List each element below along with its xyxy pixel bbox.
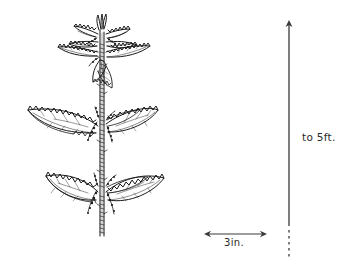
- height-scale-label: to 5ft.: [302, 131, 336, 143]
- lower-leaf-whorl: [46, 172, 164, 214]
- width-scale-label: 3in.: [224, 237, 244, 248]
- height-scale-bar: [286, 20, 293, 258]
- botanical-illustration: [0, 0, 348, 272]
- plant-drawing: [28, 14, 164, 236]
- middle-leaf-whorl: [28, 106, 158, 142]
- apex-flower-cluster: [69, 14, 137, 48]
- illustration-page: to 5ft. 3in.: [0, 0, 348, 272]
- flower-catkins-lower: [87, 173, 116, 214]
